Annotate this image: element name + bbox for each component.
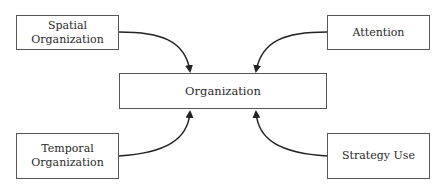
node-label: Spatial Organization	[17, 19, 118, 47]
node-spatial-organization: Spatial Organization	[16, 15, 119, 50]
node-label: Strategy Use	[342, 149, 415, 163]
node-temporal-organization: Temporal Organization	[16, 133, 119, 179]
arrow-strategy-to-organization	[256, 112, 327, 156]
node-label-line1: Temporal	[41, 142, 93, 156]
arrow-spatial-to-organization	[119, 32, 190, 71]
node-organization-center: Organization	[119, 73, 327, 109]
node-label: Attention	[353, 26, 405, 40]
arrow-temporal-to-organization	[119, 112, 190, 156]
node-strategy-use: Strategy Use	[327, 133, 430, 179]
arrow-attention-to-organization	[256, 32, 327, 71]
node-label-line2: Organization	[31, 156, 103, 170]
node-attention: Attention	[327, 15, 430, 50]
node-label: Organization	[185, 84, 261, 98]
